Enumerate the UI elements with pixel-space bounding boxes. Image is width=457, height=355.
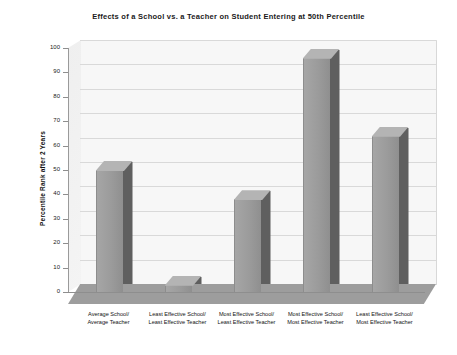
x-axis-category-line: Least Effective School/ bbox=[342, 310, 428, 318]
y-tick-label: 40 bbox=[34, 190, 60, 196]
gridline bbox=[80, 40, 436, 41]
y-tick-label: 90 bbox=[34, 68, 60, 74]
plot-area: 0102030405060708090100 Average School/Av… bbox=[0, 0, 457, 355]
y-tick-label: 60 bbox=[34, 142, 60, 148]
bar-side-face bbox=[329, 50, 340, 284]
bar[interactable] bbox=[96, 170, 122, 292]
bar-front-face bbox=[165, 285, 192, 292]
y-tick-label: 30 bbox=[34, 215, 60, 221]
x-axis-category-label: Least Effective School/Most Effective Te… bbox=[342, 310, 428, 326]
bar[interactable] bbox=[303, 58, 329, 292]
y-tick-label: 10 bbox=[34, 264, 60, 270]
gridline bbox=[80, 113, 436, 114]
y-tick-label: 80 bbox=[34, 93, 60, 99]
x-axis-line bbox=[68, 292, 425, 293]
bar[interactable] bbox=[165, 285, 191, 292]
gridline bbox=[80, 64, 436, 65]
bar-front-face bbox=[303, 58, 330, 292]
y-tick-label: 0 bbox=[34, 288, 60, 294]
gridline bbox=[80, 89, 436, 90]
bar[interactable] bbox=[234, 199, 260, 292]
y-axis-line bbox=[68, 48, 69, 293]
y-tick-label: 70 bbox=[34, 117, 60, 123]
bar-front-face bbox=[372, 136, 399, 292]
plot-left-wall bbox=[68, 40, 81, 292]
y-tick-label: 50 bbox=[34, 166, 60, 172]
bar[interactable] bbox=[372, 136, 398, 292]
y-tick-label: 100 bbox=[34, 44, 60, 50]
bar-side-face bbox=[260, 191, 271, 284]
x-axis-category-line: Most Effective Teacher bbox=[342, 318, 428, 326]
bar-front-face bbox=[96, 170, 123, 292]
bar-front-face bbox=[234, 199, 261, 292]
bar-side-face bbox=[122, 162, 133, 284]
y-tick-label: 20 bbox=[34, 239, 60, 245]
bar-side-face bbox=[398, 128, 409, 284]
